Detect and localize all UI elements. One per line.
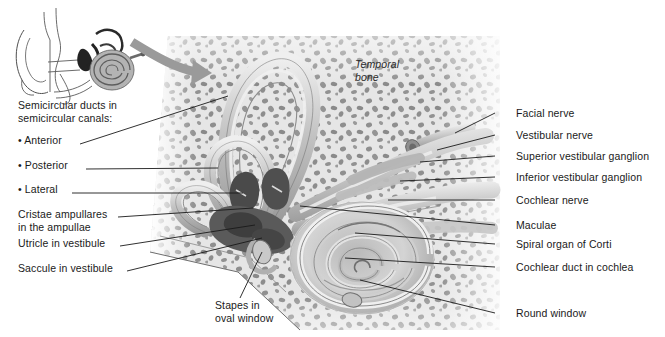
label-facial-nerve: Facial nerve — [516, 107, 574, 120]
label-stapes-in-oval-window: Stapes in oval window — [215, 299, 273, 324]
label-cristae-ampullares: Cristae ampullares in the ampullae — [18, 208, 107, 233]
label-stapes-line2: oval window — [215, 312, 273, 325]
label-semicircular-heading-line1: Semicircular ducts in — [18, 99, 117, 112]
label-cochlear-duct-in-cochlea: Cochlear duct in cochlea — [516, 261, 634, 274]
label-utricle-in-vestibule: Utricle in vestibule — [18, 237, 105, 250]
label-anterior: • Anterior — [18, 134, 62, 147]
inner-ear-figure: Temporal bone Semicircular ducts in semi… — [0, 0, 665, 337]
label-temporal-bone-line1: Temporal — [355, 58, 399, 71]
label-semicircular-heading-line2: semicircular canals: — [18, 112, 117, 125]
label-inferior-vestibular-ganglion: Inferior vestibular ganglion — [516, 171, 642, 184]
label-posterior: • Posterior — [18, 159, 68, 172]
label-lateral: • Lateral — [18, 183, 58, 196]
label-cristae-line1: Cristae ampullares — [18, 208, 107, 221]
label-vestibular-nerve: Vestibular nerve — [516, 129, 593, 142]
anatomy-illustration — [0, 0, 665, 337]
label-superior-vestibular-ganglion: Superior vestibular ganglion — [516, 150, 649, 163]
label-round-window: Round window — [516, 307, 586, 320]
label-maculae: Maculae — [516, 219, 556, 232]
label-spiral-organ-of-corti: Spiral organ of Corti — [516, 238, 612, 251]
label-temporal-bone-line2: bone — [355, 71, 399, 84]
label-saccule-in-vestibule: Saccule in vestibule — [18, 262, 113, 275]
ear-overview-inset — [16, 8, 145, 104]
label-cochlear-nerve: Cochlear nerve — [516, 194, 589, 207]
label-stapes-line1: Stapes in — [215, 299, 273, 312]
label-temporal-bone: Temporal bone — [355, 58, 399, 83]
label-semicircular-heading: Semicircular ducts in semicircular canal… — [18, 99, 117, 124]
cochlea — [290, 202, 434, 314]
label-cristae-line2: in the ampullae — [18, 221, 107, 234]
